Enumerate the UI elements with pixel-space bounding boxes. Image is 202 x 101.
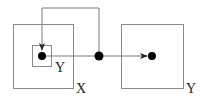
node-right bbox=[148, 52, 156, 60]
node-inner bbox=[38, 52, 46, 60]
label-right-y: Y bbox=[186, 81, 196, 96]
label-inner-y: Y bbox=[55, 60, 65, 75]
diagram-canvas: Y X Y bbox=[0, 0, 202, 101]
node-middle bbox=[95, 52, 104, 61]
label-outer-x: X bbox=[76, 81, 86, 96]
feedback-arrow bbox=[42, 8, 99, 56]
